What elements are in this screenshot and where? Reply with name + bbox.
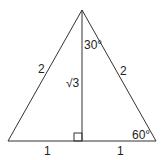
base-left-half-label: 1 bbox=[44, 145, 51, 157]
bottom-right-angle-label: 60° bbox=[132, 129, 150, 141]
triangle-diagram: 2 2 √3 30° 60° 1 1 bbox=[0, 0, 164, 160]
right-angle-marker bbox=[74, 133, 82, 141]
left-side-label: 2 bbox=[38, 63, 45, 75]
top-angle-label: 30° bbox=[84, 39, 102, 51]
base-right-half-label: 1 bbox=[117, 145, 124, 157]
right-side-label: 2 bbox=[120, 65, 127, 77]
altitude-label: √3 bbox=[66, 77, 79, 89]
